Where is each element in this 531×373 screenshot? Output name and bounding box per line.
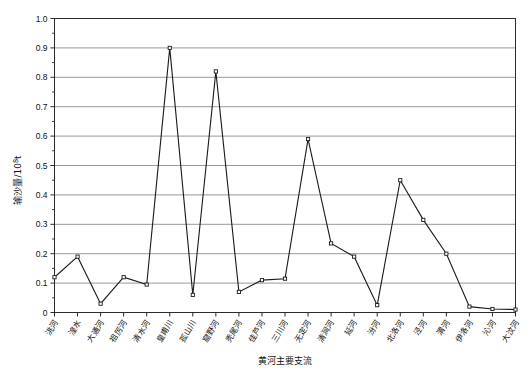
y-tick-label: 0	[43, 308, 48, 318]
x-tick-label: 清涧河	[315, 318, 336, 344]
x-tick-label: 泾河	[412, 318, 429, 337]
y-tick-label: 0.6	[36, 131, 48, 141]
x-tick-label: 秃尾河	[223, 318, 244, 344]
data-point-marker	[53, 276, 56, 279]
x-tick-label: 汾河	[365, 318, 382, 337]
y-tick-label: 1.0	[36, 14, 48, 24]
y-tick-label: 0.3	[36, 219, 48, 229]
x-tick-label: 洮河	[43, 318, 60, 337]
data-point-marker	[491, 307, 494, 310]
y-tick-label: 0.4	[36, 190, 48, 200]
data-point-marker	[445, 252, 448, 255]
svg-text:输沙量/108t: 输沙量/108t	[12, 155, 23, 205]
x-tick-label: 湟水	[66, 318, 83, 337]
x-tick-label: 伊洛河	[453, 318, 474, 344]
x-tick-label: 大通河	[85, 318, 106, 344]
x-tick-label: 沁河	[481, 318, 498, 337]
x-tick-label: 孤山川	[177, 318, 198, 344]
data-point-marker	[191, 293, 194, 296]
data-point-marker	[422, 218, 425, 221]
x-axis-title: 黄河主要支流	[258, 355, 312, 366]
y-tick-label: 0.2	[36, 249, 48, 259]
y-axis-tick-labels: 00.10.20.30.40.50.60.70.80.91.0	[36, 14, 48, 318]
data-point-marker	[468, 305, 471, 308]
data-point-marker	[145, 283, 148, 286]
y-tick-label: 0.7	[36, 102, 48, 112]
x-tick-label: 北洛河	[384, 318, 405, 344]
y-tick-label: 0.9	[36, 43, 48, 53]
sediment-load-line-chart: 00.10.20.30.40.50.60.70.80.91.0 洮河湟水大通河祖…	[0, 0, 531, 373]
x-tick-label: 佳芦河	[246, 318, 267, 344]
data-point-marker	[237, 290, 240, 293]
data-point-marker	[122, 276, 125, 279]
x-axis-ticks	[55, 313, 516, 317]
x-tick-label: 皇甫川	[154, 318, 175, 344]
y-tick-label: 0.5	[36, 161, 48, 171]
x-tick-label: 渭河	[435, 318, 452, 337]
x-tick-label: 祖厉河	[108, 318, 129, 344]
data-point-marker	[514, 308, 517, 311]
y-tick-label: 0.8	[36, 72, 48, 82]
x-tick-label: 窟野河	[200, 318, 221, 344]
data-point-marker	[306, 137, 309, 140]
data-point-marker	[353, 255, 356, 258]
data-point-marker	[214, 70, 217, 73]
x-tick-label: 大汶河	[499, 318, 520, 344]
data-point-markers	[53, 46, 517, 311]
data-point-marker	[99, 302, 102, 305]
gridlines	[55, 48, 516, 283]
data-point-marker	[76, 255, 79, 258]
series-line	[55, 48, 516, 310]
x-tick-label: 清水河	[131, 318, 152, 344]
x-tick-label: 延河	[342, 318, 359, 337]
chart-figure: 00.10.20.30.40.50.60.70.80.91.0 洮河湟水大通河祖…	[0, 0, 531, 373]
x-tick-label: 无定河	[292, 318, 313, 344]
x-axis-category-labels: 洮河湟水大通河祖厉河清水河皇甫川孤山川窟野河秃尾河佳芦河三川河无定河清涧河延河汾…	[43, 318, 521, 344]
y-axis-title: 输沙量/108t	[12, 155, 23, 205]
data-point-marker	[376, 304, 379, 307]
y-tick-label: 0.1	[36, 278, 48, 288]
data-point-marker	[283, 277, 286, 280]
x-tick-label: 三川河	[269, 318, 290, 344]
data-point-marker	[260, 279, 263, 282]
data-point-marker	[168, 46, 171, 49]
data-point-marker	[399, 179, 402, 182]
data-point-marker	[330, 242, 333, 245]
